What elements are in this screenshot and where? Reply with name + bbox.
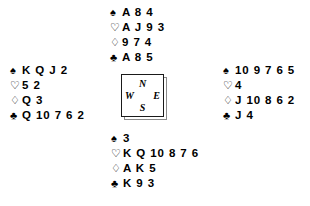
east-diamonds-cards: J 10 8 6 2 [234, 93, 295, 108]
hand-north: ♠ A 8 4 ♡ A J 9 3 ♢ 9 7 4 ♣ A 8 5 [110, 5, 165, 65]
spade-icon: ♠ [110, 5, 121, 20]
north-hearts-cards: A J 9 3 [121, 20, 165, 35]
north-clubs-cards: A 8 5 [121, 50, 154, 65]
heart-icon: ♡ [10, 78, 21, 93]
compass-label-south: S [140, 103, 146, 113]
south-clubs-cards: K 9 3 [122, 176, 155, 191]
diamond-icon: ♢ [223, 93, 234, 108]
hand-south: ♠ 3 ♡ K Q 10 8 7 6 ♢ A K 5 ♣ K 9 3 [111, 131, 199, 191]
club-icon: ♣ [111, 176, 122, 191]
west-spades-cards: K Q J 2 [21, 63, 68, 78]
hand-west: ♠ K Q J 2 ♡ 5 2 ♢ Q 3 ♣ Q 10 7 6 2 [10, 63, 85, 123]
west-clubs-row: ♣ Q 10 7 6 2 [10, 108, 85, 123]
north-spades-row: ♠ A 8 4 [110, 5, 165, 20]
west-diamonds-cards: Q 3 [21, 93, 43, 108]
south-hearts-row: ♡ K Q 10 8 7 6 [111, 146, 199, 161]
compass-label-west: W [125, 91, 134, 101]
east-spades-row: ♠ 10 9 7 6 5 [223, 63, 295, 78]
north-diamonds-cards: 9 7 4 [121, 35, 152, 50]
south-hearts-cards: K Q 10 8 7 6 [122, 146, 199, 161]
south-clubs-row: ♣ K 9 3 [111, 176, 199, 191]
west-hearts-cards: 5 2 [21, 78, 41, 93]
heart-icon: ♡ [223, 78, 234, 93]
north-diamonds-row: ♢ 9 7 4 [110, 35, 165, 50]
spade-icon: ♠ [10, 63, 21, 78]
south-spades-row: ♠ 3 [111, 131, 199, 146]
west-spades-row: ♠ K Q J 2 [10, 63, 85, 78]
north-clubs-row: ♣ A 8 5 [110, 50, 165, 65]
spade-icon: ♠ [111, 131, 122, 146]
bridge-deal-diagram: ♠ A 8 4 ♡ A J 9 3 ♢ 9 7 4 ♣ A 8 5 ♠ K Q … [0, 0, 310, 206]
compass-box-frame: N W E S [121, 74, 164, 117]
north-spades-cards: A 8 4 [121, 5, 154, 20]
club-icon: ♣ [10, 108, 21, 123]
club-icon: ♣ [223, 108, 234, 123]
club-icon: ♣ [110, 50, 121, 65]
east-diamonds-row: ♢ J 10 8 6 2 [223, 93, 295, 108]
diamond-icon: ♢ [10, 93, 21, 108]
heart-icon: ♡ [111, 146, 122, 161]
north-hearts-row: ♡ A J 9 3 [110, 20, 165, 35]
west-clubs-cards: Q 10 7 6 2 [21, 108, 85, 123]
compass-box: N W E S [121, 74, 167, 120]
east-clubs-row: ♣ J 4 [223, 108, 295, 123]
south-diamonds-cards: A K 5 [122, 161, 156, 176]
heart-icon: ♡ [110, 20, 121, 35]
east-clubs-cards: J 4 [234, 108, 254, 123]
east-spades-cards: 10 9 7 6 5 [234, 63, 295, 78]
west-diamonds-row: ♢ Q 3 [10, 93, 85, 108]
south-spades-cards: 3 [122, 131, 130, 146]
east-hearts-cards: 4 [234, 78, 242, 93]
diamond-icon: ♢ [111, 161, 122, 176]
east-hearts-row: ♡ 4 [223, 78, 295, 93]
west-hearts-row: ♡ 5 2 [10, 78, 85, 93]
compass-label-east: E [153, 91, 160, 101]
diamond-icon: ♢ [110, 35, 121, 50]
compass-label-north: N [139, 79, 146, 89]
hand-east: ♠ 10 9 7 6 5 ♡ 4 ♢ J 10 8 6 2 ♣ J 4 [223, 63, 295, 123]
south-diamonds-row: ♢ A K 5 [111, 161, 199, 176]
spade-icon: ♠ [223, 63, 234, 78]
